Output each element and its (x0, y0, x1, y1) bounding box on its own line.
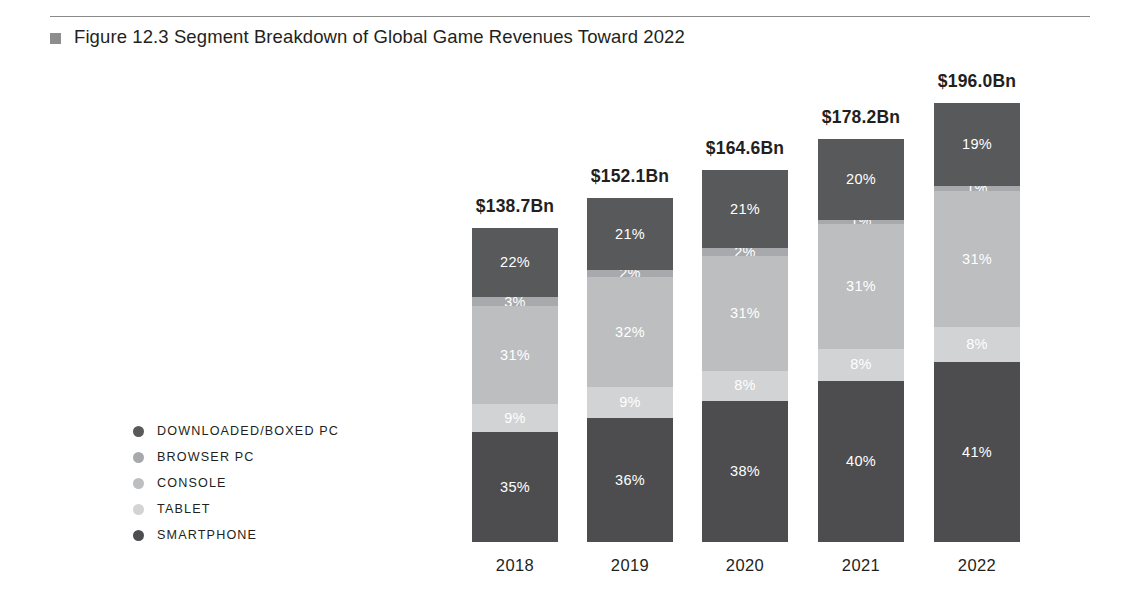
bar-segment[interactable]: 8% (934, 327, 1020, 362)
bar-segment-label: 32% (615, 325, 645, 340)
bar-segment[interactable]: 38% (702, 401, 788, 542)
bar-segment-label: 8% (966, 337, 988, 352)
bar-stack: 22%3%31%9%35% (472, 228, 558, 542)
bar-total-label: $152.1Bn (591, 166, 669, 187)
bar-total-label: $178.2Bn (822, 107, 900, 128)
bar-segment[interactable]: 19% (934, 103, 1020, 186)
bar-segment[interactable]: 8% (818, 349, 904, 381)
bar-segment[interactable]: 41% (934, 362, 1020, 542)
bar-group[interactable]: $164.6Bn21%2%31%8%38% (702, 170, 788, 542)
bar-segment[interactable]: 36% (587, 418, 673, 542)
bar-group[interactable]: $138.7Bn22%3%31%9%35% (472, 228, 558, 542)
bar-segment-label: 9% (619, 395, 641, 410)
bar-stack: 21%2%32%9%36% (587, 198, 673, 542)
bar-segment[interactable]: 31% (472, 306, 558, 403)
bar-segment-label: 19% (962, 137, 992, 152)
bar-segment-label: 22% (500, 255, 530, 270)
bar-stack: 21%2%31%8%38% (702, 170, 788, 542)
bar-stack: 20%1%31%8%40% (818, 139, 904, 542)
bar-segment[interactable]: 31% (702, 256, 788, 371)
chart-plot-area: $138.7Bn22%3%31%9%35%2018$152.1Bn21%2%32… (0, 0, 1129, 593)
bar-segment-label: 31% (730, 306, 760, 321)
bar-segment[interactable]: 9% (472, 404, 558, 432)
bar-group[interactable]: $196.0Bn19%1%31%8%41% (934, 103, 1020, 542)
bar-segment[interactable]: 32% (587, 277, 673, 387)
bar-segment-label: 35% (500, 480, 530, 495)
bar-total-label: $164.6Bn (706, 138, 784, 159)
x-axis-label: 2021 (818, 556, 904, 575)
bar-total-label: $138.7Bn (476, 196, 554, 217)
bar-total-label: $196.0Bn (938, 71, 1016, 92)
bar-segment-label: 38% (730, 464, 760, 479)
bar-segment-label: 31% (500, 348, 530, 363)
bar-segment-label: 41% (962, 445, 992, 460)
bar-segment-label: 9% (504, 411, 526, 426)
x-axis-label: 2020 (702, 556, 788, 575)
bar-stack: 19%1%31%8%41% (934, 103, 1020, 542)
bar-segment[interactable]: 8% (702, 371, 788, 401)
bar-segment-label: 40% (846, 454, 876, 469)
bar-segment[interactable]: 9% (587, 387, 673, 418)
bar-segment[interactable]: 35% (472, 432, 558, 542)
x-axis-label: 2022 (934, 556, 1020, 575)
x-axis-label: 2019 (587, 556, 673, 575)
bar-segment-label: 21% (730, 202, 760, 217)
bar-segment[interactable]: 3% (472, 297, 558, 306)
bar-segment[interactable]: 21% (702, 170, 788, 248)
bar-segment-label: 2% (619, 270, 641, 277)
bar-segment-label: 3% (504, 297, 526, 306)
bar-segment[interactable]: 21% (587, 198, 673, 270)
bar-group[interactable]: $178.2Bn20%1%31%8%40% (818, 139, 904, 542)
bar-group[interactable]: $152.1Bn21%2%32%9%36% (587, 198, 673, 542)
bar-segment[interactable]: 40% (818, 381, 904, 542)
bar-segment-label: 20% (846, 172, 876, 187)
bar-segment-label: 8% (850, 357, 872, 372)
bar-segment-label: 2% (734, 248, 756, 255)
bar-segment-label: 31% (846, 279, 876, 294)
bar-segment-label: 36% (615, 473, 645, 488)
bar-segment[interactable]: 22% (472, 228, 558, 297)
bar-segment[interactable]: 31% (934, 191, 1020, 327)
bar-segment[interactable]: 2% (702, 248, 788, 255)
bar-segment-label: 21% (615, 227, 645, 242)
bar-segment-label: 8% (734, 378, 756, 393)
bar-segment[interactable]: 20% (818, 139, 904, 220)
bar-segment[interactable]: 31% (818, 224, 904, 349)
x-axis-label: 2018 (472, 556, 558, 575)
bar-segment[interactable]: 2% (587, 270, 673, 277)
bar-segment-label: 31% (962, 252, 992, 267)
